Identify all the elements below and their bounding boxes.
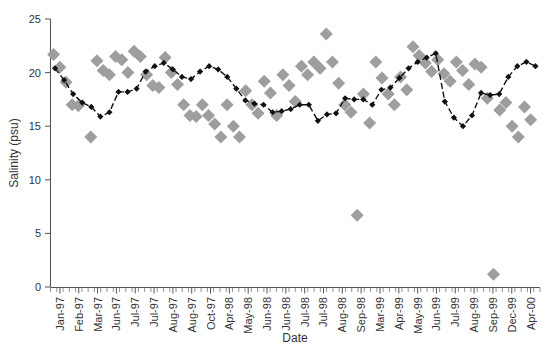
mean-marker — [134, 86, 140, 92]
mean-marker — [496, 91, 502, 97]
observation-marker — [363, 116, 376, 129]
observation-marker — [375, 71, 388, 84]
mean-marker — [106, 109, 112, 115]
mean-marker — [260, 102, 266, 108]
observation-marker — [264, 86, 277, 99]
x-tick-label: Jul-98 — [317, 297, 329, 327]
mean-marker — [115, 89, 121, 95]
mean-marker — [206, 63, 212, 69]
observation-marker — [121, 66, 134, 79]
mean-marker — [523, 59, 529, 65]
y-tick-label: 0 — [35, 281, 41, 293]
chart-canvas: 0510152025 Jan-97Feb-97Mar-97Jun-97Jul-9… — [0, 0, 550, 353]
x-tick-label: May-98 — [242, 297, 254, 334]
x-tick-label: Sep-98 — [355, 297, 367, 332]
mean-marker — [351, 96, 357, 102]
mean-marker — [442, 98, 448, 104]
mean-marker — [369, 102, 375, 108]
x-tick-label: Oct-97 — [205, 297, 217, 330]
observation-marker — [90, 54, 103, 67]
observation-marker — [177, 98, 190, 111]
mean-marker — [179, 74, 185, 80]
observation-marker — [221, 98, 234, 111]
observation-marker — [233, 130, 246, 143]
x-tick-label: Aug-99 — [468, 297, 480, 332]
y-axis-tick-marks — [45, 19, 51, 287]
observation-marker — [283, 79, 296, 92]
salinity-time-series-chart: 0510152025 Jan-97Feb-97Mar-97Jun-97Jul-9… — [0, 0, 550, 353]
mean-marker — [378, 87, 384, 93]
observation-marker — [326, 55, 339, 68]
y-tick-label: 10 — [29, 174, 41, 186]
x-tick-label: Apr-98 — [223, 297, 235, 330]
x-tick-label: Apr-99 — [393, 297, 405, 330]
x-tick-label: Jun-97 — [110, 297, 122, 331]
observation-marker — [369, 55, 382, 68]
observation-marker — [320, 28, 333, 41]
x-tick-label: Apr-00 — [525, 297, 537, 330]
x-tick-label: Jul-97 — [129, 297, 141, 327]
observation-marker — [487, 268, 500, 281]
y-tick-label: 15 — [29, 120, 41, 132]
x-axis-tick-labels: Jan-97Feb-97Mar-97Jun-97Jul-97Jul-97Aug-… — [54, 297, 537, 334]
mean-marker — [215, 66, 221, 72]
mean-marker — [478, 90, 484, 96]
observation-marker — [518, 100, 531, 113]
observation-marker — [227, 120, 240, 133]
observation-marker — [47, 48, 60, 61]
x-tick-label: Aug-98 — [336, 297, 348, 332]
observation-marker — [332, 77, 345, 90]
x-tick-label: Aug-97 — [167, 297, 179, 332]
observation-marker — [276, 68, 289, 81]
x-tick-label: Mar-99 — [374, 297, 386, 332]
mean-marker — [469, 112, 475, 118]
observation-marker — [214, 130, 227, 143]
mean-marker — [306, 102, 312, 108]
x-tick-label: Jun-98 — [261, 297, 273, 331]
mean-marker — [333, 110, 339, 116]
mean-marker — [124, 89, 130, 95]
x-tick-label: Jun-98 — [280, 297, 292, 331]
mean-marker — [324, 111, 330, 117]
x-tick-label: Mar-97 — [92, 297, 104, 332]
x-tick-label: Aug-97 — [186, 297, 198, 332]
observation-marker — [388, 98, 401, 111]
y-axis-title: Salinity (psu) — [7, 118, 21, 187]
mean-marker — [288, 106, 294, 112]
x-axis-tick-marks — [51, 288, 541, 294]
y-axis-tick-labels: 0510152025 — [29, 13, 41, 293]
observation-marker — [400, 83, 413, 96]
y-tick-label: 5 — [35, 227, 41, 239]
y-tick-label: 20 — [29, 67, 41, 79]
observation-markers — [47, 28, 537, 281]
observation-marker — [462, 78, 475, 91]
x-tick-label: Jul-99 — [449, 297, 461, 327]
mean-marker — [532, 63, 538, 69]
x-tick-label: Jul-97 — [148, 297, 160, 327]
observation-marker — [84, 130, 97, 143]
x-axis-title: Date — [282, 331, 308, 345]
observation-marker — [506, 120, 519, 133]
observation-marker — [512, 130, 525, 143]
x-tick-label: Dec-99 — [506, 297, 518, 332]
x-tick-label: May-99 — [412, 297, 424, 334]
observation-marker — [258, 75, 271, 88]
observation-marker — [196, 98, 209, 111]
x-tick-label: Feb-97 — [73, 297, 85, 332]
observation-marker — [524, 113, 537, 126]
x-tick-label: Sep-99 — [487, 297, 499, 332]
x-tick-label: Jan-97 — [54, 297, 66, 331]
x-tick-label: Jul-98 — [299, 297, 311, 327]
observation-marker — [351, 209, 364, 222]
mean-marker — [152, 63, 158, 69]
x-tick-label: Jun-99 — [430, 297, 442, 331]
y-tick-label: 25 — [29, 13, 41, 25]
